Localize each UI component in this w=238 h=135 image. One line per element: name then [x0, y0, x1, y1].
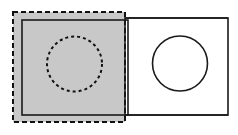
figure-canvas	[0, 0, 238, 135]
figure-svg	[0, 0, 238, 135]
solid-circle	[153, 36, 208, 91]
shaded-dashed-square-fill	[13, 12, 125, 122]
